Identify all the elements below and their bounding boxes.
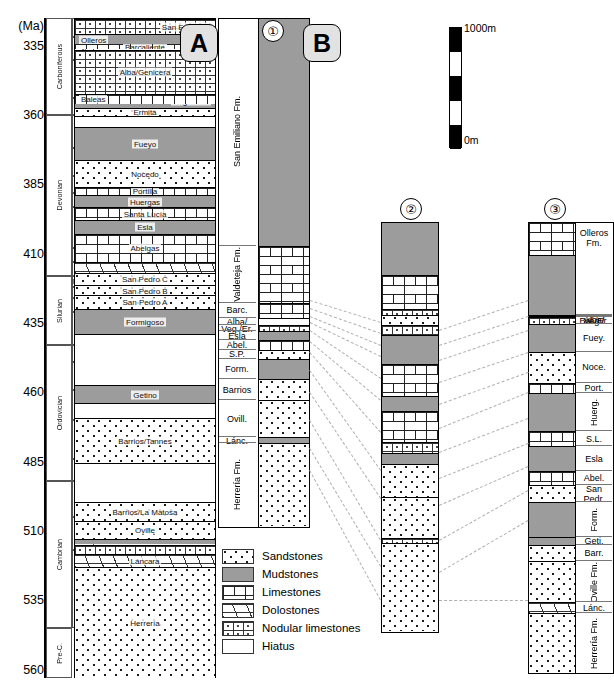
unit-mudstone <box>529 393 575 431</box>
unit-label: Getino <box>75 390 215 399</box>
unit-limestone <box>382 364 438 396</box>
legend-swatch-sandstone <box>222 549 254 564</box>
unit-sandstone <box>382 315 438 325</box>
correlation-line <box>309 352 381 433</box>
unit-sandstone <box>529 485 575 502</box>
scale-segment <box>450 101 461 125</box>
unit-mudstone: Getino <box>75 385 215 403</box>
period-cell: Cambrian <box>46 481 72 628</box>
unit-label: Herrería <box>75 619 215 628</box>
unit-nodular <box>75 545 215 555</box>
time-tick-label: 460 <box>23 385 44 399</box>
scale-segment <box>450 76 461 100</box>
period-cell: Ordovician <box>46 345 72 481</box>
panel-tag-b: B <box>303 24 341 62</box>
unit-side-label: Fuey. <box>576 323 612 352</box>
unit-side-label: Barc. <box>218 302 256 318</box>
period-cell: Silurian <box>46 276 72 345</box>
time-tick-label: 360 <box>23 108 44 122</box>
period-column: CarboniferousDevonianSilurianOrdovicianC… <box>46 18 72 678</box>
unit-sandstone: Herrería <box>75 567 215 679</box>
unit-side-label: Herrería Fm. <box>218 442 256 526</box>
correlation-line <box>439 392 528 429</box>
unit-label-text: Esla <box>585 454 603 464</box>
unit-sandstone <box>259 350 309 359</box>
legend-label: Sandstones <box>262 550 323 562</box>
unit-label: Abelgas <box>75 244 215 253</box>
unit-limestone <box>382 411 438 441</box>
unit-nodular <box>529 317 575 324</box>
unit-mudstone <box>529 255 575 316</box>
unit-label-text: Herrería Fm. <box>232 459 242 510</box>
unit-sandstone <box>382 464 438 497</box>
unit-label: Portilla <box>75 187 215 195</box>
time-tick-label: 410 <box>23 247 44 261</box>
unit-label-text: Huerg. <box>589 399 599 426</box>
unit-mudstone <box>382 335 438 364</box>
unit-sandstone: Barrios/Tannes <box>75 418 215 462</box>
unit-dolostone <box>75 262 215 273</box>
column-b-labels: San Emiliano Fm.Valdeteja Fm.Barc.Alba/V… <box>218 18 258 528</box>
period-label: Carboniferous <box>55 44 64 89</box>
unit-side-label: Herrería Fm. <box>576 612 612 673</box>
correlation-line <box>309 330 381 379</box>
unit-sandstone: San Pedro C <box>75 273 215 285</box>
unit-sandstone <box>529 613 575 673</box>
legend: SandstonesMudstonesLimestonesDolostonesN… <box>222 549 402 659</box>
unit-side-label: San Emiliano Fm. <box>218 18 256 245</box>
unit-limestone: Abelgas <box>75 234 215 262</box>
column-a[interactable]: San EmilianoValdetejaBarcalienteOllerosA… <box>74 18 216 678</box>
unit-side-label: Oville Fm. <box>576 560 612 602</box>
unit-nodular <box>382 442 438 454</box>
legend-swatch-limestone <box>222 585 254 600</box>
unit-side-label: Form. <box>218 358 256 379</box>
correlation-line <box>439 490 528 541</box>
unit-side-label: Huerg. <box>576 392 612 431</box>
period-cell: Devonian <box>46 115 72 276</box>
unit-label: San Pedro B <box>75 286 215 295</box>
legend-label: Mudstones <box>262 568 318 580</box>
unit-sandstone <box>259 400 309 437</box>
correlation-line <box>310 308 381 334</box>
column-b[interactable] <box>258 18 310 528</box>
unit-label-text: Lánc. <box>583 603 605 613</box>
unit-hiatus <box>259 318 309 325</box>
unit-label: Láncara <box>75 556 215 565</box>
unit-label-text: S.L. <box>586 434 602 444</box>
unit-label: Nocedo <box>75 170 215 179</box>
unit-sandstone: Barrios/La Matosa <box>75 502 215 521</box>
correlation-line <box>309 392 381 499</box>
time-tick-label: 485 <box>23 455 44 469</box>
unit-sandstone <box>529 561 575 602</box>
unit-label: Esla <box>75 223 215 232</box>
unit-mudstone: Fueyo <box>75 127 215 160</box>
unit-nodular <box>382 325 438 334</box>
correlation-line <box>310 316 381 346</box>
unit-label-text: Fuey. <box>583 333 605 343</box>
unit-mudstone <box>259 359 309 379</box>
unit-mudstone <box>382 223 438 275</box>
correlation-line <box>439 330 528 361</box>
unit-sandstone: Ermita <box>75 108 215 116</box>
legend-swatch-mudstone <box>222 567 254 582</box>
time-unit-label: (Ma) <box>18 19 44 33</box>
unit-limestone: Santa Lucía <box>75 207 215 220</box>
unit-limestone <box>529 431 575 446</box>
unit-mudstone <box>529 537 575 545</box>
period-label: Ordovician <box>55 396 64 430</box>
unit-hiatus <box>75 463 215 502</box>
correlation-line <box>439 466 528 506</box>
unit-limestone <box>259 303 309 318</box>
unit-label-text: Form. <box>225 364 249 374</box>
unit-sandstone <box>382 497 438 537</box>
legend-swatch-nodular <box>222 621 254 636</box>
unit-side-label: Barrios <box>218 378 256 400</box>
column-3[interactable] <box>528 222 576 674</box>
correlation-line <box>439 372 528 405</box>
unit-limestone <box>529 383 575 393</box>
correlation-line <box>309 420 381 541</box>
correlation-line <box>310 322 381 357</box>
unit-side-label: Barr. <box>576 544 612 562</box>
unit-hiatus <box>75 116 215 127</box>
period-cell: Carboniferous <box>46 18 72 115</box>
